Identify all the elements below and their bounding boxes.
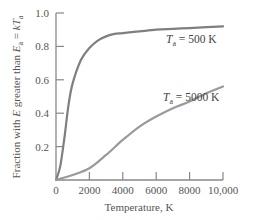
x-tick-label: 8000 xyxy=(179,184,202,196)
y-axis-title: Fraction with E greater than Ea = kTa xyxy=(10,15,25,178)
x-tick-label: 0 xyxy=(53,184,59,196)
x-axis-title: Temperature, K xyxy=(105,201,174,213)
series-group xyxy=(56,26,223,180)
y-tick-label: 0.4 xyxy=(35,107,49,119)
series-labels: Ta = 500 KTa = 5000 K xyxy=(163,33,220,106)
y-tick-label: 1.0 xyxy=(35,7,49,19)
series-label-5000k: Ta = 5000 K xyxy=(163,91,220,106)
y-axis-ticks: 0.20.40.60.81.0 xyxy=(35,7,64,153)
x-tick-label: 2000 xyxy=(78,184,101,196)
x-tick-label: 4000 xyxy=(112,184,135,196)
x-axis-ticks: 0200040006000800010,000 xyxy=(53,172,238,196)
y-tick-label: 0.6 xyxy=(35,74,49,86)
x-tick-label: 6000 xyxy=(145,184,168,196)
x-tick-label: 10,000 xyxy=(208,184,239,196)
activation-energy-chart: Fraction with E greater than Ea = kTa 0.… xyxy=(0,0,255,220)
y-tick-label: 0.8 xyxy=(35,40,49,52)
y-tick-label: 0.2 xyxy=(35,141,49,153)
series-line-500k xyxy=(56,26,223,180)
series-label-500k: Ta = 500 K xyxy=(166,33,217,48)
